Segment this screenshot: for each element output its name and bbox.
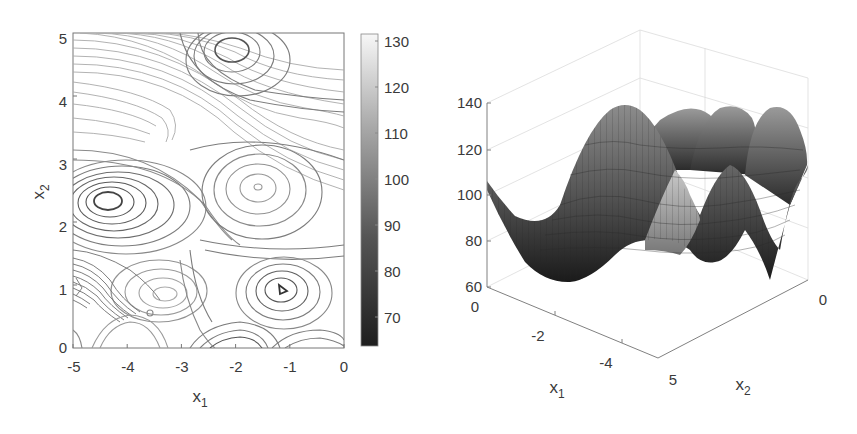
surface-z-tick-labels: 140 120 100 80 60 [457,94,482,295]
z-tick-label: 80 [465,232,482,249]
x-tick-label: 0 [340,358,348,375]
x2-tick-label: 0 [819,291,827,308]
colorbar-tick-label: 70 [384,309,401,326]
x-tick-label: -4 [121,358,134,375]
x1-tick-label: 0 [471,298,479,315]
figure: -5 -4 -3 -2 -1 0 0 1 2 3 4 5 x1 x2 [0,0,857,434]
colorbar-tick-label: 130 [384,33,409,50]
x1-tick-label: -2 [531,327,544,344]
colorbar-tick-label: 120 [384,79,409,96]
colorbar-tick-labels: 130 120 110 100 90 80 70 [384,33,409,326]
colorbar-tick-label: 90 [384,217,401,234]
colorbar-tick-label: 100 [384,171,409,188]
surface-x1-tick-labels: 0 -2 -4 [471,298,613,371]
y-tick-label: 1 [59,281,67,298]
contour-y-axis-label: x2 [29,184,52,200]
y-tick-label: 5 [59,30,67,47]
z-tick-label: 120 [457,141,482,158]
surface-mesh [487,105,808,282]
x1-tick-label: -4 [599,354,612,371]
surface-x1-axis-label: x1 [549,378,565,401]
colorbar-gradient [361,34,378,346]
x-tick-label: -5 [67,358,80,375]
contour-plot: -5 -4 -3 -2 -1 0 0 1 2 3 4 5 x1 x2 [29,24,348,410]
y-tick-label: 2 [59,218,67,235]
surface-plot: 140 120 100 80 60 0 -2 -4 5 0 x1 x2 [457,30,827,401]
x-tick-label: -2 [229,358,242,375]
y-tick-label: 0 [59,339,67,356]
colorbar-tick-label: 80 [384,263,401,280]
contour-y-tick-labels: 0 1 2 3 4 5 [59,30,67,356]
y-tick-label: 3 [59,156,67,173]
colorbar-tick-label: 110 [384,125,408,142]
x-tick-label: -1 [283,358,296,375]
contour-x-axis-label: x1 [192,387,208,410]
x2-tick-label: 5 [669,371,677,388]
x-tick-label: -3 [175,358,188,375]
contour-x-tick-labels: -5 -4 -3 -2 -1 0 [67,358,348,375]
y-tick-label: 4 [59,93,67,110]
colorbar: 130 120 110 100 90 80 70 [361,33,409,346]
z-tick-label: 60 [465,278,482,295]
z-tick-label: 100 [457,186,482,203]
z-tick-label: 140 [457,94,482,111]
surface-x2-axis-label: x2 [735,375,751,398]
